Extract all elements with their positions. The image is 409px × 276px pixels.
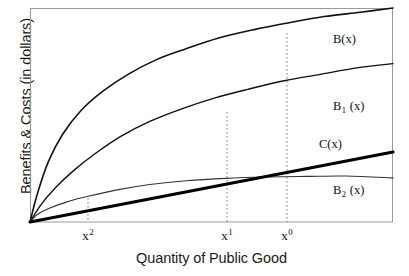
x-tick-x2-base: x <box>82 228 89 243</box>
curve-label-b2-subscript: 2 <box>341 189 346 199</box>
x-tick-x1-base: x <box>221 228 228 243</box>
curve-label-c: C(x) <box>319 137 342 152</box>
x-tick-x0-base: x <box>281 228 288 243</box>
x-tick-label-x2: x2 <box>82 228 94 244</box>
curve-label-b1: B1 (x) <box>333 99 364 114</box>
x-tick-x0-superscript: 0 <box>288 227 293 237</box>
x-tick-label-x0: x0 <box>281 228 293 244</box>
x-tick-label-x1: x1 <box>221 228 233 244</box>
x-tick-x1-superscript: 1 <box>228 227 233 237</box>
curve-label-b2-tail: (x) <box>347 183 365 197</box>
x-tick-x2-superscript: 2 <box>89 227 94 237</box>
curve-label-b1-subscript: 1 <box>341 105 346 115</box>
chart-figure: Benefits & Costs (in dollars) B(x) B1 (x… <box>0 0 409 276</box>
curve-label-b: B(x) <box>333 32 356 47</box>
curve-label-b2: B2 (x) <box>333 183 364 198</box>
curve-label-b1-tail: (x) <box>347 99 365 113</box>
x-axis-title: Quantity of Public Good <box>30 250 393 266</box>
